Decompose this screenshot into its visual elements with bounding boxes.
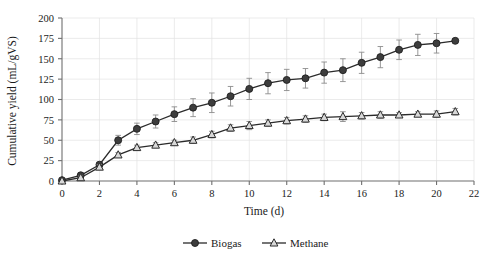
data-point-marker [396,46,403,53]
legend: BiogasMethane [183,237,329,249]
x-tick-label: 8 [209,188,214,199]
data-point-marker [152,118,159,125]
legend-label-1: Methane [290,237,329,249]
data-point-marker [377,54,384,61]
data-point-marker [115,137,122,144]
y-tick-label: 25 [44,155,55,166]
data-point-marker [227,93,234,100]
data-point-marker [321,69,328,76]
data-point-marker [133,125,140,132]
x-axis-ticks: 0246810121416182022 [59,181,479,199]
x-tick-label: 16 [356,188,367,199]
series-biogas [59,33,459,183]
data-point-marker [283,76,290,83]
data-point-marker [208,99,215,106]
data-point-marker [339,67,346,74]
x-tick-label: 10 [244,188,255,199]
y-axis-ticks: 0255075100125150175200 [38,13,62,187]
cumulative-yield-chart: 0255075100125150175200 02468101214161820… [0,0,504,267]
y-tick-label: 150 [38,54,54,65]
data-point-marker [452,37,459,44]
x-tick-label: 22 [469,188,480,199]
x-tick-label: 2 [97,188,102,199]
figure-container: 0255075100125150175200 02468101214161820… [0,0,504,267]
data-point-marker [246,85,253,92]
x-tick-label: 12 [281,188,292,199]
x-tick-label: 6 [172,188,177,199]
data-point-marker [414,41,421,48]
y-tick-label: 100 [38,94,54,105]
y-tick-label: 50 [44,135,55,146]
y-tick-label: 175 [38,33,54,44]
data-point-marker [171,111,178,118]
x-axis-title: Time (d) [244,205,284,218]
y-tick-label: 0 [49,176,54,187]
x-tick-label: 18 [394,188,405,199]
y-tick-label: 125 [38,74,54,85]
data-point-marker [433,40,440,47]
x-tick-label: 0 [59,188,64,199]
data-point-marker [265,80,272,87]
y-axis-title: Cumulative yield (mL/gVS) [6,36,19,166]
series-line [62,112,455,181]
data-point-marker [190,104,197,111]
data-point-marker [192,240,199,247]
data-point-marker [302,75,309,82]
gridlines [62,18,474,181]
legend-label-0: Biogas [211,237,242,249]
x-tick-label: 14 [319,188,330,199]
x-tick-label: 4 [134,188,140,199]
series-line [62,41,455,180]
data-point-marker [358,59,365,66]
y-tick-label: 75 [44,115,55,126]
y-tick-label: 200 [38,13,54,24]
x-tick-label: 20 [431,188,442,199]
